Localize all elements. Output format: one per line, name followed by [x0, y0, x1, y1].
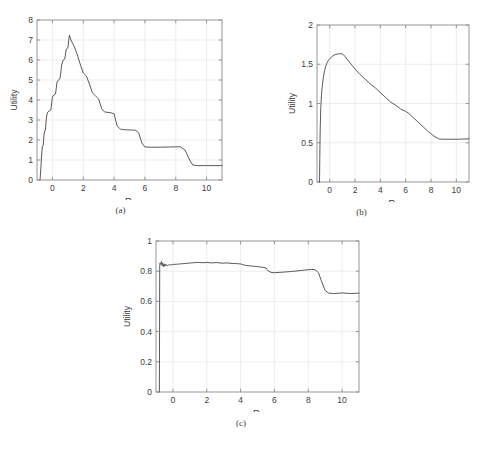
x-tick-label: 6 [272, 395, 277, 405]
x-tick-label: 10 [452, 185, 462, 195]
x-tick-label: 8 [429, 185, 434, 195]
chart-a: 0246810012345678UtilityRv [0, 0, 241, 200]
x-tick-label: 2 [204, 395, 209, 405]
x-axis-label: Rv [252, 409, 263, 412]
y-tick-label: 0 [147, 387, 152, 397]
x-tick-label: 10 [337, 395, 347, 405]
y-tick-label: 2 [308, 20, 313, 30]
y-tick-label: 0.6 [140, 296, 152, 306]
data-line [320, 54, 469, 182]
x-tick-label: 8 [306, 395, 311, 405]
y-tick-label: 0.2 [140, 357, 152, 367]
panel-a: 0246810012345678UtilityRv (a) [0, 0, 241, 227]
x-tick-label: 2 [353, 185, 358, 195]
x-axis-label: Rv [388, 199, 399, 202]
y-tick-label: 0.8 [140, 266, 152, 276]
y-tick-label: 1.5 [301, 59, 313, 69]
y-tick-label: 3 [28, 115, 33, 125]
x-tick-label: 6 [403, 185, 408, 195]
y-tick-label: 0.5 [301, 138, 313, 148]
chart-b: 024681000.511.52UtilityRv [241, 0, 482, 202]
y-axis-label: Utility [9, 89, 19, 111]
y-axis-label: Utility [122, 305, 132, 327]
panel-c-caption: (c) [111, 418, 371, 428]
y-tick-label: 5 [28, 75, 33, 85]
y-axis-label: Utility [287, 92, 297, 114]
x-tick-label: 0 [171, 395, 176, 405]
x-axis-label: Rv [124, 197, 135, 200]
data-line [159, 261, 359, 392]
y-tick-label: 4 [28, 95, 33, 105]
y-tick-label: 7 [28, 35, 33, 45]
y-tick-label: 2 [28, 135, 33, 145]
x-tick-label: 4 [112, 183, 117, 193]
y-tick-label: 1 [28, 155, 33, 165]
y-tick-label: 0.4 [140, 327, 152, 337]
x-tick-label: 10 [202, 183, 212, 193]
x-tick-label: 2 [81, 183, 86, 193]
x-tick-label: 0 [327, 185, 332, 195]
y-tick-label: 0 [28, 175, 33, 185]
panel-b-caption: (b) [241, 207, 482, 217]
panel-a-caption: (a) [0, 205, 241, 215]
y-tick-label: 0 [308, 177, 313, 187]
y-tick-label: 1 [147, 236, 152, 246]
x-tick-label: 4 [238, 395, 243, 405]
x-tick-label: 0 [50, 183, 55, 193]
x-tick-label: 8 [173, 183, 178, 193]
data-line [40, 35, 222, 180]
y-tick-label: 6 [28, 55, 33, 65]
x-tick-label: 6 [143, 183, 148, 193]
chart-c: 024681000.20.40.60.81UtilityRv [111, 227, 371, 412]
y-tick-label: 8 [28, 15, 33, 25]
panel-b: 024681000.511.52UtilityRv (b) [241, 0, 482, 227]
y-tick-label: 1 [308, 99, 313, 109]
x-tick-label: 4 [378, 185, 383, 195]
